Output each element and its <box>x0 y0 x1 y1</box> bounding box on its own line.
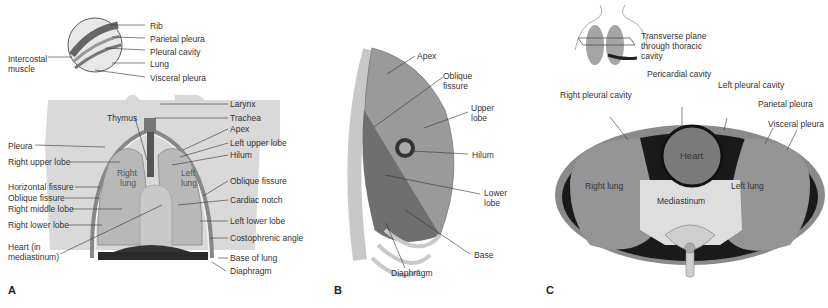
label-right-pleural-cavity: Right pleural cavity <box>560 90 632 100</box>
label-muscle: muscle <box>8 64 35 74</box>
label-right-upper-lobe: Right upper lobe <box>8 157 70 167</box>
panel-letter-c: C <box>546 284 554 296</box>
panel-letter-b: B <box>334 284 342 296</box>
label-mediastinum: Mediastinum <box>657 196 705 206</box>
label-transverse-2: through thoracic <box>641 41 702 51</box>
label-larynx: Larynx <box>230 99 256 109</box>
label-thymus: Thymus <box>107 113 137 123</box>
heart-shape <box>140 185 172 248</box>
label-horizontal-fissure: Horizontal fissure <box>8 182 74 192</box>
label-cardiac-notch: Cardiac notch <box>230 195 282 205</box>
label-oblique-b-2: fissure <box>443 81 468 91</box>
label-lower-lobe-1: Lower <box>484 188 507 198</box>
label-rib: Rib <box>150 21 163 31</box>
label-apex-b: Apex <box>417 51 436 61</box>
label-diaphragm-a: Diaphragm <box>230 266 272 276</box>
label-oblique-b-1: Oblique <box>443 71 472 81</box>
label-costophrenic-angle: Costophrenic angle <box>230 233 303 243</box>
label-visceral-pleura: Visceral pleura <box>150 73 206 83</box>
label-transverse-3: cavity <box>641 51 663 61</box>
label-base-of-lung: Base of lung <box>230 253 277 263</box>
label-pleural-cavity: Pleural cavity <box>150 47 201 57</box>
label-right-middle-lobe: Right middle lobe <box>8 204 74 214</box>
label-lower-lobe-2: lobe <box>484 198 500 208</box>
label-right-lung-c: Right lung <box>585 181 623 191</box>
label-trachea: Trachea <box>230 113 261 123</box>
label-left-lower-lobe: Left lower lobe <box>230 216 285 226</box>
label-upper-lobe-1: Upper <box>471 103 494 113</box>
label-intercostal: Intercostal <box>8 54 47 64</box>
label-parietal-pleura: Parietal pleura <box>150 34 205 44</box>
label-oblique-fissure-a: Oblique fissure <box>8 193 65 203</box>
label-base-b: Base <box>474 250 493 260</box>
label-right-lower-lobe: Right lower lobe <box>8 220 69 230</box>
label-hilum-b: Hilum <box>472 150 494 160</box>
label-left-lung-2: lung <box>181 178 197 188</box>
trachea-shape <box>147 132 154 177</box>
label-heart-2: mediastinum) <box>8 252 59 262</box>
panel-letter-a: A <box>8 284 16 296</box>
label-parietal-pleura-c: Parietal pleura <box>758 99 813 109</box>
label-oblique-fissure-a-right: Oblique fissure <box>230 176 287 186</box>
label-right-lung-1: Right <box>117 168 137 178</box>
lung-anatomy-illustration <box>0 0 828 308</box>
label-left-lung-c: Left lung <box>731 181 764 191</box>
label-left-pleural-cavity: Left pleural cavity <box>718 80 784 90</box>
label-apex-a: Apex <box>230 124 249 134</box>
label-left-upper-lobe: Left upper lobe <box>230 138 287 148</box>
label-upper-lobe-2: lobe <box>471 113 487 123</box>
label-pleura: Pleura <box>8 141 33 151</box>
label-left-lung-1: Left <box>181 168 195 178</box>
label-heart-c: Heart <box>680 151 703 161</box>
label-hilum-a: Hilum <box>230 150 252 160</box>
label-pericardial-cavity: Pericardial cavity <box>647 69 711 79</box>
label-transverse-1: Transverse plane <box>641 31 706 41</box>
larynx-shape <box>144 118 156 132</box>
label-right-lung-2: lung <box>120 178 136 188</box>
label-visceral-pleura-c: Visceral pleura <box>768 119 824 129</box>
label-lung: Lung <box>150 59 169 69</box>
label-diaphragm-b: Diaphragm <box>391 268 433 278</box>
label-heart-1: Heart (in <box>8 242 41 252</box>
